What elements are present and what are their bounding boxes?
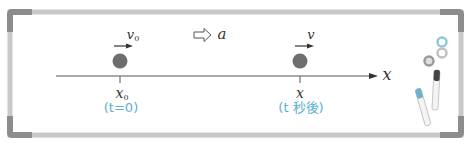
later-position-label: x [296,86,304,100]
later-time-caption: (t 秒後) [278,101,323,114]
magnet-gray-icon [438,49,447,58]
magnet-blue-icon [438,38,447,47]
initial-time-caption: (t=0) [104,101,138,114]
ball-initial [113,54,128,69]
acceleration-label: a [218,27,227,42]
axis-label: x [382,67,391,83]
later-velocity-label: v [307,28,314,41]
ball-later [293,54,308,69]
magnet-dark-icon [425,57,434,66]
whiteboard-frame [0,0,471,149]
initial-velocity-label: v0 [127,28,139,43]
